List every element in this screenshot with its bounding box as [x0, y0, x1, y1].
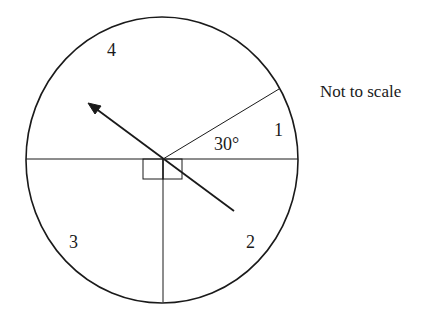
not-to-scale-note: Not to scale [320, 82, 401, 102]
sector-label-1: 1 [274, 120, 283, 140]
angle-label: 30° [214, 134, 239, 154]
circle-sector-diagram: 30° 1 2 3 4 [0, 0, 436, 319]
sector-label-2: 2 [246, 232, 255, 252]
arrow-head-icon [88, 103, 101, 114]
outer-circle [26, 17, 298, 303]
sector-label-3: 3 [69, 232, 78, 252]
sector-label-4: 4 [107, 40, 116, 60]
right-angle-marker-right [163, 159, 182, 179]
right-angle-marker-left [143, 159, 163, 179]
